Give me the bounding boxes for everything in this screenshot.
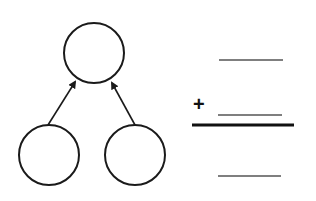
- plus-operator: +: [193, 94, 205, 114]
- part-right-circle[interactable]: [105, 125, 165, 185]
- part-left-circle[interactable]: [19, 125, 79, 185]
- arrow-left-to-whole: [48, 82, 75, 125]
- whole-circle[interactable]: [64, 23, 124, 83]
- arrow-right-to-whole: [112, 83, 135, 125]
- number-bond-diagram: [0, 0, 316, 201]
